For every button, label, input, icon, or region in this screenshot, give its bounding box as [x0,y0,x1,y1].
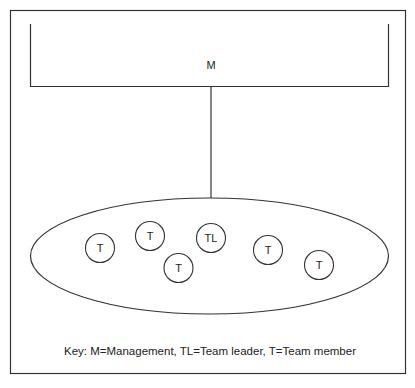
svg-text:T: T [147,230,154,242]
svg-text:T: T [97,242,104,254]
svg-text:T: T [316,259,323,271]
svg-text:T: T [175,262,182,274]
svg-text:T: T [265,244,272,256]
team-member-node: T [305,251,334,280]
team-ellipse [31,198,389,314]
team-member-node: T [164,254,193,283]
org-diagram: M T T TL T T T Key: M=Management, TL=Tea… [0,0,415,388]
diagram-key: Key: M=Management, TL=Team leader, T=Tea… [64,345,356,357]
team-member-node: T [254,236,283,265]
team-member-node: T [86,234,115,263]
management-label: M [206,59,215,71]
team-leader-node: TL [197,224,226,253]
management-bracket [31,24,389,87]
svg-text:TL: TL [205,232,218,244]
team-member-node: T [136,222,165,251]
